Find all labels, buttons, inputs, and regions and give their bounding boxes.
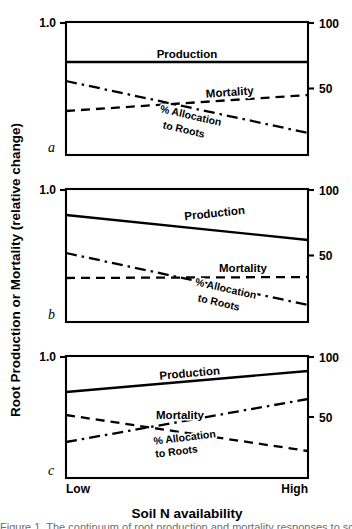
panel-a-letter: a [48,140,55,155]
panel-b: 1.0 100 50 Production Mortality % Alloca… [39,183,339,322]
figure-svg: Root Production or Mortality (relative c… [0,0,352,529]
panel-c-right-tick-label-50: 50 [319,411,333,425]
panel-a-production-label: Production [157,48,218,60]
panel-a: 1.0 100 50 Production Mortality % Alloca… [39,16,339,155]
panel-c-left-tick-label: 1.0 [39,350,56,364]
x-axis-low-label: Low [66,482,91,496]
caption-fragment: Figure 1. The continuum of root producti… [0,522,352,529]
panel-c-letter: c [48,463,55,478]
x-axis-title: Soil N availability [131,506,243,521]
figure-root-production-mortality: Root Production or Mortality (relative c… [0,0,352,529]
panel-a-left-tick-label: 1.0 [39,16,56,30]
panel-b-right-tick-label-100: 100 [319,184,339,198]
panel-a-right-tick-label-50: 50 [319,82,333,96]
panel-a-right-tick-label-100: 100 [319,17,339,31]
panel-c-mortality-label: Mortality [156,409,205,421]
x-axis-high-label: High [281,482,308,496]
panel-b-letter: b [48,307,55,322]
panel-b-production-label: Production [184,204,246,222]
panel-c-right-tick-label-100: 100 [319,351,339,365]
panel-b-right-tick-label-50: 50 [319,249,333,263]
panel-b-mortality-label: Mortality [219,262,268,274]
panel-c: 1.0 100 50 Production Mortality % Alloca… [39,350,339,478]
y-axis-title: Root Production or Mortality (relative c… [8,123,23,417]
panel-a-mortality-label: Mortality [205,84,254,99]
panel-b-left-tick-label: 1.0 [39,183,56,197]
